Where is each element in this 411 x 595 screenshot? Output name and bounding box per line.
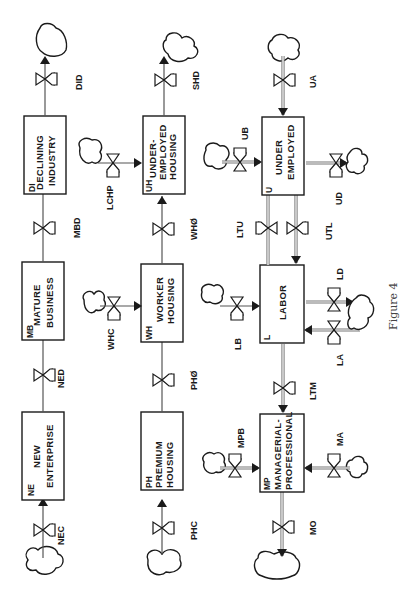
sink-cloud-icon <box>36 24 66 57</box>
svg-text:WH: WH <box>144 326 154 340</box>
rate-label-WHC: WHC <box>106 328 116 350</box>
rate-label-NEC: NEC <box>56 525 66 545</box>
source-cloud-icon <box>203 453 225 474</box>
svg-text:NE: NE <box>26 484 36 496</box>
rate-valve-PHC[interactable] <box>153 522 174 534</box>
rate-label-MA: MA <box>335 432 345 446</box>
level-new-enterprise[interactable]: NE NEW ENTERPRISE <box>22 412 64 500</box>
svg-text:LABOR: LABOR <box>277 285 288 320</box>
svg-text:HOUSING: HOUSING <box>165 278 176 324</box>
svg-text:EMPLOYED: EMPLOYED <box>285 124 296 180</box>
svg-text:NEW: NEW <box>31 445 42 468</box>
rate-valve-MBD[interactable] <box>34 222 55 234</box>
rate-label-LTU: LTU <box>235 221 245 238</box>
figure-caption: Figure 4 <box>387 282 400 330</box>
rate-valve-DID[interactable] <box>36 73 57 85</box>
rate-valve-NEC[interactable] <box>34 524 55 536</box>
level-managerial-professional[interactable]: MP MANAGERIAL- PROFESSIONAL <box>260 411 304 492</box>
rate-label-PHC: PHC <box>189 520 199 540</box>
rate-valve-LB[interactable] <box>231 297 243 320</box>
source-cloud-icon <box>26 547 63 575</box>
level-mature-business[interactable]: MB MATURE BUSINESS <box>22 262 64 340</box>
rate-valve-WHO[interactable] <box>153 223 174 235</box>
rate-label-UB: UB <box>240 127 250 140</box>
sink-cloud-icon <box>255 551 300 579</box>
level-declining-industry[interactable]: DI DECLINING INDUSTRY <box>24 116 66 194</box>
rate-label-LTM: LTM <box>308 382 318 400</box>
sink-cloud-icon <box>163 33 198 62</box>
source-cloud-icon <box>201 284 223 303</box>
svg-text:UH: UH <box>144 180 154 192</box>
svg-text:PREMIUM: PREMIUM <box>153 441 164 488</box>
population-sector: MO MP MANAGERIAL- PROFESSIONAL MPB MA <box>201 34 373 579</box>
svg-text:DECLINING: DECLINING <box>34 135 45 190</box>
rate-valve-LCHP[interactable] <box>107 154 119 177</box>
source-sink-cloud-icon <box>348 295 374 329</box>
rate-label-UD: UD <box>334 192 344 205</box>
level-worker-housing[interactable]: WH WORKER HOUSING <box>141 264 183 342</box>
svg-text:MATURE: MATURE <box>31 284 42 326</box>
rate-label-MBD: MBD <box>72 217 82 238</box>
rate-label-DID: DID <box>74 74 84 90</box>
svg-text:HOUSING: HOUSING <box>167 134 178 180</box>
rate-label-MPB: MPB <box>236 428 246 449</box>
source-cloud-icon <box>83 291 105 313</box>
rate-label-LB: LB <box>233 338 243 350</box>
svg-text:WORKER: WORKER <box>154 277 165 322</box>
rate-valve-SHD[interactable] <box>155 74 176 86</box>
rate-label-LD: LD <box>335 268 345 280</box>
level-underemployed[interactable]: U UNDER EMPLOYED <box>262 117 304 195</box>
svg-text:MP: MP <box>262 477 272 490</box>
rate-valve-LD[interactable] <box>328 288 340 311</box>
level-premium-housing[interactable]: PH PREMIUM HOUSING <box>141 412 183 490</box>
rate-label-UTL: UTL <box>324 222 334 240</box>
rate-valve-PHO[interactable] <box>153 374 174 386</box>
svg-text:MANAGERIAL-: MANAGERIAL- <box>272 419 283 490</box>
svg-text:ENTERPRISE: ENTERPRISE <box>44 424 55 488</box>
housing-sector: PHC PH PREMIUM HOUSING PHØ WH WORKER HOU… <box>79 33 201 575</box>
svg-text:HOUSING: HOUSING <box>164 442 175 488</box>
rate-label-SHD: SHD <box>191 70 201 90</box>
svg-text:U: U <box>264 187 274 193</box>
rate-valve-UB[interactable] <box>234 148 246 171</box>
rate-label-MO: MO <box>308 521 318 536</box>
svg-text:UNDER: UNDER <box>273 140 284 175</box>
svg-text:L: L <box>262 335 272 340</box>
rate-valve-MPB[interactable] <box>229 454 241 477</box>
rate-valve-LA[interactable] <box>328 321 340 344</box>
source-cloud-icon <box>147 550 181 575</box>
rate-valve-WHC[interactable] <box>108 297 120 320</box>
svg-text:BUSINESS: BUSINESS <box>44 277 55 328</box>
rate-label-UA: UA <box>308 75 318 88</box>
rate-label-LCHP: LCHP <box>105 186 115 211</box>
source-cloud-icon <box>79 138 101 163</box>
rate-valve-MA[interactable] <box>328 454 340 477</box>
source-cloud-icon <box>204 143 229 169</box>
rate-label-NED: NED <box>56 368 66 388</box>
rate-label-PHO: PHØ <box>189 370 199 390</box>
level-labor[interactable]: L LABOR <box>260 265 304 343</box>
industry-sector: NEC NE NEW ENTERPRISE NED MB MATURE BUSI… <box>22 24 84 575</box>
sink-cloud-icon <box>346 148 367 173</box>
system-dynamics-diagram: NEC NE NEW ENTERPRISE NED MB MATURE BUSI… <box>0 0 411 595</box>
level-underemployed-housing[interactable]: UH UNDER- EMPLOYED HOUSING <box>143 116 185 194</box>
rate-label-WHO: WHØ <box>189 218 199 240</box>
rate-label-LA: LA <box>335 354 345 366</box>
rate-valve-NED[interactable] <box>34 369 55 381</box>
svg-text:INDUSTRY: INDUSTRY <box>46 135 57 186</box>
svg-text:PROFESSIONAL: PROFESSIONAL <box>283 411 294 490</box>
